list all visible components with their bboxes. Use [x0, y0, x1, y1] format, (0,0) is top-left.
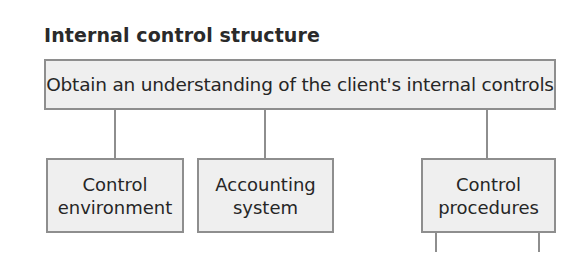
node-label-line2: procedures [438, 196, 539, 219]
node-label-line2: system [215, 196, 316, 219]
diagram-title: Internal control structure [44, 24, 320, 46]
node-control-environment: Control environment [46, 158, 184, 233]
node-accounting-system: Accounting system [197, 158, 334, 233]
root-node-understand-internal-controls: Obtain an understanding of the client's … [44, 59, 556, 110]
connector-procedures-stub-left [435, 233, 437, 252]
root-node-label: Obtain an understanding of the client's … [46, 74, 554, 95]
connector-root-to-accounting-system [264, 110, 266, 158]
node-label-line1: Control [438, 173, 539, 196]
connector-root-to-control-environment [114, 110, 116, 158]
node-label-line1: Control [58, 173, 173, 196]
node-label-line2: environment [58, 196, 173, 219]
node-label-line1: Accounting [215, 173, 316, 196]
node-control-procedures: Control procedures [421, 158, 556, 233]
connector-procedures-stub-right [538, 233, 540, 252]
connector-root-to-control-procedures [486, 110, 488, 158]
